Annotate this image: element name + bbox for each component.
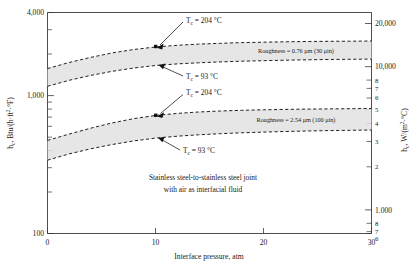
- annotation-tc93-lower: Tc = 93 °C: [158, 137, 215, 156]
- caption-line-1: Stainless steel-to-stainless steel joint: [149, 173, 258, 182]
- tc-eq-2: = 93 °C: [193, 72, 218, 81]
- right-tick-label-1000: 1.000: [375, 206, 392, 215]
- hc-rest-right: , W/(m: [400, 124, 409, 145]
- right-tick-label-20000: 20,000: [375, 19, 396, 28]
- y-axis-left-title: hc, Btu/(h·ft2·°F): [5, 97, 16, 149]
- roughness-label-upper: Roughness = 0.76 μm (30 μin): [258, 47, 334, 55]
- right-tick-label-3000: 3: [375, 138, 379, 145]
- leader-tc93-upper: [162, 67, 183, 77]
- x-tick-label-30: 30: [368, 238, 376, 247]
- left-tick-label-4000: 4,000: [27, 8, 44, 17]
- chart-figure: 4,000 1,000 100 20,000 10,000 8 7 6: [0, 0, 418, 262]
- right-tick-label-600: 6: [375, 235, 379, 242]
- x-axis-tick-labels: 0 10 20 30: [46, 238, 376, 247]
- hc-rest-left: , Btu/(h·ft: [6, 111, 15, 142]
- point-marker-tc204-lower: [154, 114, 157, 117]
- right-axis-tick-labels: 20,000 10,000 8 7 6 5 4 3 2 1.000 8 7 6: [375, 19, 396, 241]
- hc-tail-left: ·°F): [6, 97, 15, 110]
- tc-eq-3: = 204 °C: [193, 88, 222, 97]
- point-marker-tc204-upper: [154, 45, 157, 48]
- left-axis-ticks: [48, 13, 55, 234]
- leader-tc93-lower: [162, 140, 181, 151]
- plot-caption: Stainless steel-to-stainless steel joint…: [149, 173, 258, 194]
- annotation-label-tc93-upper: Tc = 93 °C: [186, 72, 218, 82]
- leader-tc204-upper: [160, 22, 183, 45]
- x-tick-label-10: 10: [152, 238, 160, 247]
- right-tick-label-7000: 7: [375, 85, 379, 92]
- leader-tc204-lower: [161, 95, 184, 114]
- right-tick-label-2000: 2: [375, 163, 379, 170]
- left-tick-label-1000: 1,000: [27, 91, 44, 100]
- x-tick-label-0: 0: [46, 238, 50, 247]
- y-axis-left-title-group: hc, Btu/(h·ft2·°F): [5, 97, 16, 149]
- annotation-label-tc93-lower: Tc = 93 °C: [183, 146, 215, 156]
- right-tick-label-800: 8: [375, 220, 379, 227]
- caption-line-2: with air as interfacial fluid: [164, 185, 243, 194]
- right-tick-label-6000: 6: [375, 94, 379, 101]
- x-axis-ticks: [48, 228, 372, 234]
- tc-eq-4: = 93 °C: [190, 146, 215, 155]
- tc-eq-1: = 204 °C: [193, 16, 222, 25]
- right-tick-label-4000: 4: [375, 120, 379, 127]
- x-axis-title: Interface pressure, atm: [174, 252, 243, 261]
- right-tick-label-5000: 5: [375, 106, 379, 113]
- hc-tail-right: ·°C): [400, 108, 409, 122]
- chart-svg: 4,000 1,000 100 20,000 10,000 8 7 6: [0, 0, 418, 262]
- right-tick-label-10000: 10,000: [375, 62, 396, 71]
- right-tick-label-8000: 8: [375, 77, 379, 84]
- y-axis-right-title-group: hc, W/(m2·°C): [399, 108, 410, 152]
- left-axis-tick-labels: 4,000 1,000 100: [27, 8, 44, 238]
- annotation-tc93-upper: Tc = 93 °C: [159, 64, 218, 82]
- roughness-label-lower: Roughness = 2.54 μm (100 μin): [257, 116, 336, 124]
- annotation-label-tc204-upper: Tc = 204 °C: [186, 16, 222, 26]
- y-axis-right-title: hc, W/(m2·°C): [399, 108, 410, 152]
- annotation-label-tc204-lower: Tc = 204 °C: [186, 88, 222, 98]
- left-tick-label-100: 100: [33, 229, 45, 238]
- x-tick-label-20: 20: [260, 238, 268, 247]
